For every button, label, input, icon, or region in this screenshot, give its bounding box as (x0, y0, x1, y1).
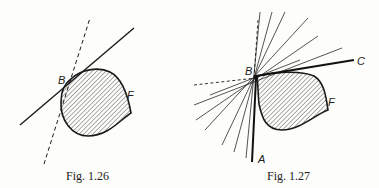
hatched-region (257, 72, 328, 130)
label-B: B (58, 74, 65, 86)
caption-fig-1-26: Fig. 1.26 (66, 169, 109, 184)
label-F: F (328, 96, 336, 108)
supporting-line-dashed-left (194, 78, 256, 85)
hatched-region (61, 69, 131, 136)
label-A: A (257, 153, 265, 165)
figure-canvas: B F B C F A Fig. 1.26 (0, 0, 379, 188)
figure-1-27: B C F A (194, 12, 365, 165)
label-C: C (357, 55, 365, 67)
corner-point-B (254, 75, 258, 79)
label-F: F (127, 89, 135, 101)
figure-1-26: B F (20, 18, 135, 164)
figures-svg: B F B C F A (0, 0, 379, 188)
label-B: B (245, 65, 252, 77)
caption-fig-1-27: Fig. 1.27 (267, 169, 310, 184)
